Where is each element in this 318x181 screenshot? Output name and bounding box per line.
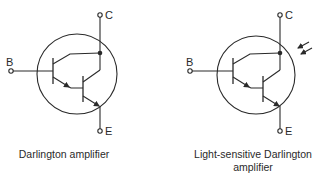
collector-label: C [105, 9, 113, 21]
collector-terminal [98, 13, 102, 17]
transistor-envelope [37, 34, 117, 114]
caption-line-2: amplifier [190, 161, 316, 174]
emitter-terminal [278, 129, 282, 133]
base-terminal [188, 69, 192, 73]
light-darlington-caption: Light-sensitive Darlington amplifier [190, 148, 316, 174]
caption-line-1: Light-sensitive Darlington [190, 148, 316, 161]
base-label: B [6, 56, 13, 68]
emitter-label: E [285, 125, 292, 137]
darlington-symbol [9, 13, 117, 133]
collector-terminal [278, 13, 282, 17]
base-terminal [9, 69, 13, 73]
transistor-envelope [217, 36, 295, 114]
emitter-terminal [98, 129, 102, 133]
emitter-label: E [105, 125, 112, 137]
light-darlington-symbol [188, 13, 312, 133]
light-arrows-icon [298, 42, 312, 54]
darlington-caption: Darlington amplifier [0, 148, 128, 161]
base-label: B [186, 56, 193, 68]
collector-label: C [285, 9, 293, 21]
